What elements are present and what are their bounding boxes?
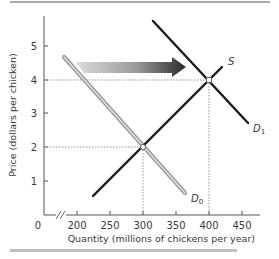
y-tick-label: 2 [31, 142, 37, 153]
origin-label: 0 [35, 220, 41, 231]
equilibrium-point-new [207, 78, 212, 83]
d0-label: D0 [191, 193, 203, 206]
chart-canvas: 5 4 3 2 1 0 200 250 300 350 400 450 Quan… [0, 0, 279, 259]
demand-curve-d0 [64, 57, 185, 193]
x-tick-label: 350 [166, 220, 185, 231]
y-axis-title: Price (dollars per chicken) [7, 53, 18, 176]
y-tick-label: 1 [31, 176, 37, 187]
x-axis-title: Quantity (millions of chickens per year) [68, 233, 255, 244]
x-tick-label: 450 [232, 220, 251, 231]
x-tick-label: 400 [199, 220, 218, 231]
axis-break-icon [56, 209, 66, 221]
y-tick-label: 5 [31, 41, 37, 52]
y-tick-label: 4 [31, 75, 37, 86]
y-ticks [44, 46, 48, 181]
x-tick-label: 300 [133, 220, 152, 231]
bottom-rule [10, 249, 237, 252]
x-ticks [77, 211, 242, 215]
x-tick-label: 200 [67, 220, 86, 231]
supply-label: S [228, 56, 235, 67]
equilibrium-point-initial [140, 144, 145, 149]
demand-shift-arrow-icon [76, 57, 186, 77]
x-tick-label: 250 [100, 220, 119, 231]
supply-curve [93, 67, 222, 196]
d1-label: D1 [253, 123, 265, 136]
y-tick-label: 3 [31, 108, 37, 119]
